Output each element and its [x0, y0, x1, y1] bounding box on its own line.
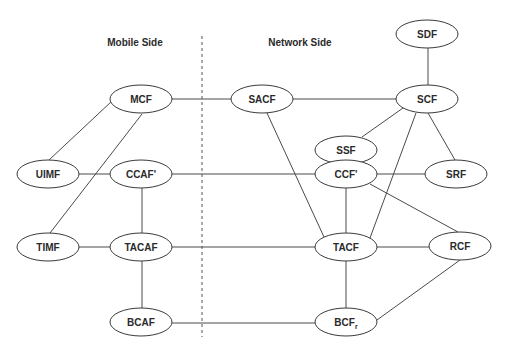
edge-ccf-rcf	[370, 184, 458, 232]
edge-scf-ssf	[362, 108, 403, 137]
node-timf: TIMF	[17, 233, 79, 261]
node-scf: SCF	[396, 85, 458, 113]
functional-architecture-diagram: SDFMCFSACFSCFSSFUIMFCCAF'CCF'SRFTIMFTACA…	[0, 0, 508, 355]
node-label: CCF'	[335, 169, 358, 180]
node-tacaf: TACAF	[110, 233, 172, 261]
node-label: TACAF	[124, 242, 157, 253]
diagram-canvas: SDFMCFSACFSCFSSFUIMFCCAF'CCF'SRFTIMFTACA…	[0, 0, 508, 355]
side-labels: Mobile SideNetwork Side	[107, 37, 332, 48]
node-label: SCF	[417, 94, 437, 105]
node-label: BCAF	[127, 317, 155, 328]
node-label: TACF	[333, 242, 359, 253]
node-sdf: SDF	[396, 20, 458, 48]
node-uimf: UIMF	[17, 160, 79, 188]
node-label: CCAF'	[126, 169, 156, 180]
node-label: UIMF	[36, 169, 60, 180]
node-ccaf: CCAF'	[110, 160, 172, 188]
node-label: MCF	[130, 94, 152, 105]
edge-scf-srf	[428, 113, 455, 160]
node-label: SDF	[417, 29, 437, 40]
node-tacf: TACF	[315, 233, 377, 261]
node-label: SSF	[336, 145, 355, 156]
node-bcfr: BCFr	[315, 308, 377, 336]
node-label: TIMF	[36, 242, 59, 253]
node-label: SACF	[248, 94, 275, 105]
node-ccf: CCF'	[315, 160, 377, 188]
node-mcf: MCF	[110, 85, 172, 113]
side-label-network: Network Side	[268, 37, 332, 48]
node-rcf: RCF	[429, 232, 491, 260]
node-srf: SRF	[425, 160, 487, 188]
node-label-subscript: r	[355, 323, 358, 330]
edge-rcf-bcfr	[377, 260, 460, 320]
node-label: SRF	[446, 169, 466, 180]
edge-mcf-uimf	[49, 101, 112, 160]
node-bcaf: BCAF	[110, 308, 172, 336]
node-sacf: SACF	[231, 85, 293, 113]
node-label: RCF	[450, 241, 471, 252]
side-label-mobile: Mobile Side	[107, 37, 163, 48]
